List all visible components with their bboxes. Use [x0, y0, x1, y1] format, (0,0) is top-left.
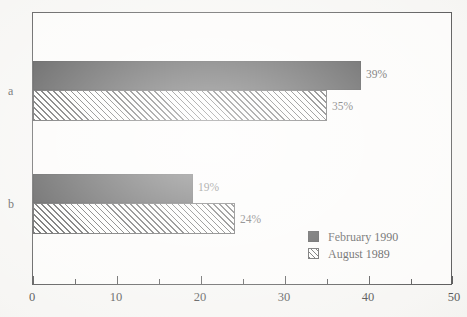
bar-a-august-1989	[33, 90, 327, 121]
x-axis-label-30: 30	[278, 291, 291, 304]
legend-item-august-1989: August 1989	[308, 246, 398, 261]
x-tick-40	[369, 276, 370, 284]
x-tick-35	[327, 279, 328, 284]
x-tick-30	[285, 276, 286, 284]
x-tick-45	[411, 279, 412, 284]
x-tick-5	[75, 279, 76, 284]
bar-b-august-1989	[33, 203, 235, 234]
legend-label-august-1989: August 1989	[328, 248, 390, 260]
x-tick-15	[159, 279, 160, 284]
legend-swatch-solid-icon	[308, 231, 319, 242]
x-tick-10	[117, 276, 118, 284]
legend: February 1990 August 1989	[308, 229, 398, 263]
bar-value-label-a-august-1989: 35%	[332, 101, 353, 113]
x-tick-25	[243, 279, 244, 284]
x-axis-label-10: 10	[110, 291, 123, 304]
legend-swatch-hatch-icon	[308, 248, 319, 259]
bar-chart-figure: 39% 35% 19% 24% February 1990 August 198…	[0, 0, 467, 317]
category-label-a: a	[8, 85, 13, 97]
x-axis-label-50: 50	[448, 291, 461, 304]
bar-a-february-1990	[33, 61, 361, 90]
x-tick-0	[33, 276, 34, 284]
bar-value-label-a-february-1990: 39%	[366, 69, 387, 81]
plot-area: 39% 35% 19% 24% February 1990 August 198…	[32, 12, 452, 285]
bar-value-label-b-february-1990: 19%	[198, 182, 219, 194]
x-axis-label-0: 0	[29, 291, 35, 304]
bar-b-february-1990	[33, 174, 193, 203]
category-label-b: b	[8, 198, 14, 210]
legend-label-february-1990: February 1990	[328, 231, 398, 243]
x-axis-label-40: 40	[362, 291, 375, 304]
legend-item-february-1990: February 1990	[308, 229, 398, 244]
x-axis-label-20: 20	[194, 291, 207, 304]
x-tick-50	[452, 276, 453, 284]
x-tick-20	[201, 276, 202, 284]
bar-value-label-b-august-1989: 24%	[240, 214, 261, 226]
